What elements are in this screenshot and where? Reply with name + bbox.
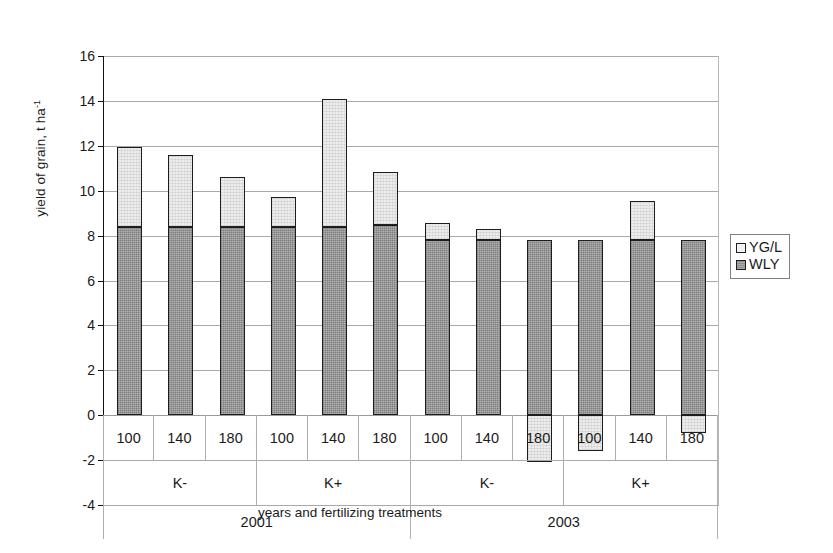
legend-label-wly: WLY	[749, 256, 779, 273]
category-row-potassium: K-K+K-K+	[103, 460, 718, 505]
category-label-rate: 140	[616, 415, 667, 460]
y-tick-label: 8	[87, 229, 95, 243]
category-label-rate: 180	[513, 415, 564, 460]
legend-item-ygl: YG/L	[736, 239, 782, 256]
category-label-rate: 100	[411, 415, 462, 460]
bar-segment-ygl	[425, 223, 450, 240]
category-label-rate: 140	[308, 415, 359, 460]
category-label-rate: 100	[257, 415, 308, 460]
category-row-rate: 100140180100140180100140180100140180	[103, 415, 718, 460]
bar-segment-wly	[425, 240, 450, 415]
legend-label-ygl: YG/L	[749, 239, 782, 256]
category-label-rate: 100	[103, 415, 154, 460]
bar-segment-wly	[117, 227, 142, 416]
y-tick-label: 14	[79, 94, 95, 108]
bar-segment-wly	[220, 227, 245, 416]
bar-segment-ygl	[630, 201, 655, 240]
category-label-rate: 100	[564, 415, 615, 460]
bar-segment-wly	[271, 227, 296, 416]
y-tick-label: 16	[79, 49, 95, 63]
legend-item-wly: WLY	[736, 256, 782, 273]
category-label-rate: 180	[359, 415, 410, 460]
bar-segment-ygl	[168, 155, 193, 227]
bar-segment-wly	[322, 227, 347, 416]
bar-segment-wly	[527, 240, 552, 415]
bar-segment-wly	[168, 227, 193, 416]
y-axis-title: yield of grain, t ha-1	[32, 58, 49, 258]
y-tick-label: 10	[79, 184, 95, 198]
category-label-potassium: K+	[564, 460, 718, 505]
bar-segment-ygl	[322, 99, 347, 227]
y-tick-label: 0	[87, 408, 95, 422]
y-axis-title-superscript: -1	[32, 100, 42, 108]
bar-segment-wly	[373, 225, 398, 415]
y-tick-label: -2	[83, 453, 95, 467]
category-label-rate: 180	[667, 415, 718, 460]
bar-segment-wly	[681, 240, 706, 415]
chart-legend: YG/L WLY	[730, 234, 790, 279]
plot-right-border	[718, 56, 719, 505]
bar-segment-wly	[476, 240, 501, 415]
category-label-potassium: K-	[411, 460, 565, 505]
bar-segment-ygl	[476, 229, 501, 240]
dark-square-icon	[736, 260, 746, 270]
y-axis-title-text: yield of grain, t ha	[33, 108, 48, 217]
category-label-rate: 140	[154, 415, 205, 460]
bar-segment-ygl	[117, 147, 142, 227]
y-tick-label: 4	[87, 318, 95, 332]
category-label-potassium: K-	[103, 460, 257, 505]
bar-segment-ygl	[271, 197, 296, 226]
y-tick-label: 12	[79, 139, 95, 153]
category-label-rate: 140	[462, 415, 513, 460]
category-label-rate: 180	[206, 415, 257, 460]
category-label-potassium: K+	[257, 460, 411, 505]
bar-chart: yield of grain, t ha-1 1614121086420-2-4…	[0, 0, 833, 553]
bar-segment-ygl	[373, 172, 398, 226]
bar-segment-ygl	[220, 177, 245, 226]
light-square-icon	[736, 243, 746, 253]
x-axis-title: years and fertilizing treatments	[0, 505, 700, 520]
y-tick-label: 2	[87, 363, 95, 377]
bar-segment-wly	[578, 240, 603, 415]
bar-segment-wly	[630, 240, 655, 415]
y-tick-label: 6	[87, 274, 95, 288]
